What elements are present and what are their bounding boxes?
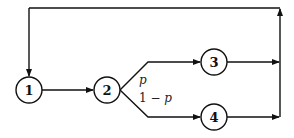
node-2: 2: [94, 77, 120, 103]
node-1: 1: [16, 77, 42, 103]
node-3-label: 3: [209, 55, 218, 70]
node-1-label: 1: [24, 83, 33, 98]
diagram-svg: 1 2 3 4 p 1 − p: [0, 0, 294, 138]
branch-probability-p: p: [139, 73, 147, 87]
node-2-label: 2: [102, 83, 111, 98]
node-4-label: 4: [209, 110, 218, 125]
node-3: 3: [201, 49, 227, 75]
branch-probability-1-minus-p: 1 − p: [139, 91, 172, 105]
node-4: 4: [201, 104, 227, 130]
branch-lower-var: p: [164, 91, 172, 105]
queueing-network-diagram: 1 2 3 4 p 1 − p: [0, 0, 294, 138]
branch-lower-prefix: 1 −: [139, 91, 164, 105]
edge-2-to-3: [120, 62, 200, 90]
